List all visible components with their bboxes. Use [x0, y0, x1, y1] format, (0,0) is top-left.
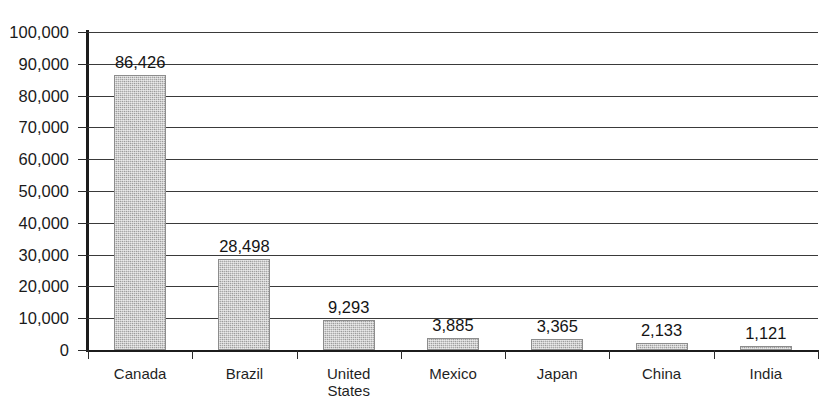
y-axis-tick: [78, 64, 88, 65]
gridline: [88, 64, 818, 65]
y-axis-label: 70,000: [0, 119, 69, 136]
bar: [114, 75, 166, 350]
y-axis-tick: [78, 191, 88, 192]
gridline: [88, 286, 818, 287]
bar: [636, 343, 688, 350]
y-axis-label: 60,000: [0, 151, 69, 168]
y-axis-tick: [78, 32, 88, 33]
y-axis-label: 90,000: [0, 56, 69, 73]
chart-title-remnant: [0, 0, 839, 9]
category-label: India: [706, 365, 826, 382]
y-axis-tick: [78, 159, 88, 160]
y-axis-tick: [78, 96, 88, 97]
bar-value-label: 28,498: [194, 238, 294, 255]
gridline: [88, 127, 818, 128]
gridline: [88, 191, 818, 192]
x-axis-tick: [818, 350, 819, 359]
gridline: [88, 32, 818, 33]
category-label: Mexico: [393, 365, 513, 382]
y-axis-tick: [78, 350, 88, 351]
category-label: United States: [289, 365, 409, 399]
bar-value-label: 86,426: [90, 54, 190, 71]
y-axis-label: 100,000: [0, 24, 69, 41]
y-axis-label: 0: [0, 342, 69, 359]
category-label: Brazil: [184, 365, 304, 382]
plot-area: [88, 32, 818, 350]
y-axis-tick: [78, 255, 88, 256]
category-label: China: [602, 365, 722, 382]
y-axis-label: 50,000: [0, 183, 69, 200]
y-axis-tick: [78, 127, 88, 128]
bar-value-label: 3,885: [403, 317, 503, 334]
bar-value-label: 3,365: [507, 318, 607, 335]
y-axis-tick: [78, 223, 88, 224]
x-axis-baseline: [88, 350, 818, 352]
bar: [427, 338, 479, 350]
y-axis-label: 30,000: [0, 247, 69, 264]
x-axis-tick: [297, 350, 298, 359]
category-label: Japan: [497, 365, 617, 382]
bar-value-label: 1,121: [716, 325, 816, 342]
bar: [740, 346, 792, 350]
x-axis-tick: [192, 350, 193, 359]
bar: [323, 320, 375, 350]
y-axis-label: 80,000: [0, 88, 69, 105]
y-axis-label: 20,000: [0, 278, 69, 295]
y-axis-label: 10,000: [0, 310, 69, 327]
gridline: [88, 223, 818, 224]
bar-value-label: 2,133: [612, 322, 712, 339]
bar: [218, 259, 270, 350]
x-axis-tick: [714, 350, 715, 359]
bar-value-label: 9,293: [299, 299, 399, 316]
bar-chart: 010,00020,00030,00040,00050,00060,00070,…: [0, 0, 839, 417]
x-axis-tick: [88, 350, 89, 359]
x-axis-tick: [401, 350, 402, 359]
y-axis-tick: [78, 286, 88, 287]
category-label: Canada: [80, 365, 200, 382]
gridline: [88, 159, 818, 160]
y-axis-label: 40,000: [0, 215, 69, 232]
x-axis-tick: [609, 350, 610, 359]
x-axis-tick: [505, 350, 506, 359]
gridline: [88, 96, 818, 97]
bar: [531, 339, 583, 350]
y-axis-tick: [78, 318, 88, 319]
